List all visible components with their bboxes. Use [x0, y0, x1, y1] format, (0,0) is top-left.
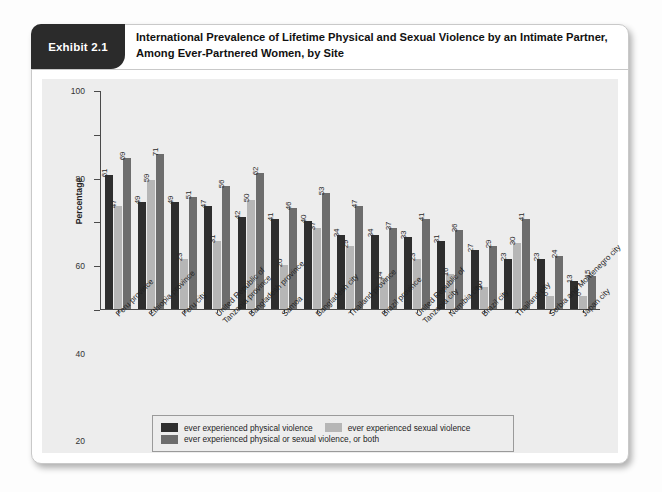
bar: 61 [105, 175, 113, 309]
bar-group: 233041 [500, 91, 533, 309]
bar-value-label: 29 [341, 239, 350, 248]
exhibit-number-label: Exhibit 2.1 [48, 41, 108, 53]
legend-swatch-sexual-icon [325, 423, 342, 432]
bar-value-label: 50 [242, 193, 251, 202]
bar-value-label: 71 [151, 147, 160, 156]
bar-value-label: 16 [441, 268, 450, 277]
bar-value-label: 13 [565, 274, 574, 283]
bar: 69 [123, 158, 131, 309]
legend-label-physical: ever experienced physical violence [184, 423, 313, 433]
header-divider [32, 69, 628, 70]
bar-value-label: 49 [133, 195, 142, 204]
bar-value-label: 47 [350, 200, 359, 209]
x-axis-labels: Peru provinceEthiopia provincePeru cityU… [101, 312, 601, 408]
bar: 53 [322, 193, 330, 309]
legend-row-1: ever experienced physical violence ever … [161, 423, 505, 433]
bar-group: 271029 [467, 91, 500, 309]
legend-swatch-either-icon [161, 435, 178, 444]
bar-value-label: 33 [399, 230, 408, 239]
bar-value-label: 30 [508, 237, 517, 246]
bar-value-label: 23 [175, 252, 184, 261]
bar-value-label: 41 [417, 213, 426, 222]
legend-label-either: ever experienced physical or sexual viol… [184, 434, 379, 444]
bar-value-label: 29 [484, 239, 493, 248]
bar: 47 [355, 206, 363, 309]
bar-value-label: 40 [299, 215, 308, 224]
bar-value-label: 24 [550, 250, 559, 259]
y-tick: 100 [94, 91, 100, 92]
bar-group: 495971 [134, 91, 167, 309]
chart-panel: Percentage 020406080100 6147694959714923… [42, 79, 618, 453]
y-tick-label: 100 [71, 86, 85, 96]
bar-value-label: 31 [208, 235, 217, 244]
bar-value-label: 41 [266, 213, 275, 222]
bar-group: 473156 [201, 91, 234, 309]
bar: 51 [189, 197, 197, 309]
legend-swatch-physical-icon [161, 423, 178, 432]
bar-value-label: 27 [466, 244, 475, 253]
y-tick: 60 [94, 179, 100, 180]
legend-item-sexual: ever experienced sexual violence [325, 423, 471, 433]
bar-value-label: 62 [251, 167, 260, 176]
bar: 47 [114, 206, 122, 309]
bar-group: 403753 [301, 91, 334, 309]
bar-value-label: 23 [499, 252, 508, 261]
y-tick-label: 80 [76, 174, 85, 184]
bar-group: 614769 [101, 91, 134, 309]
bar-value-label: 59 [142, 174, 151, 183]
legend-row-2: ever experienced physical or sexual viol… [161, 434, 505, 444]
legend-item-either: ever experienced physical or sexual viol… [161, 434, 379, 444]
bar-value-label: 49 [166, 195, 175, 204]
bar-value-label: 34 [332, 228, 341, 237]
bar-value-label: 31 [432, 235, 441, 244]
exhibit-header: Exhibit 2.1 International Prevalence of … [32, 25, 628, 69]
bar: 71 [156, 154, 164, 309]
bar: 37 [313, 228, 321, 309]
bar-value-label: 56 [217, 180, 226, 189]
bar-value-label: 23 [408, 252, 417, 261]
y-tick: 20 [94, 266, 100, 267]
bar-value-label: 69 [118, 152, 127, 161]
bar-value-label: 46 [284, 202, 293, 211]
y-tick: 40 [94, 222, 100, 223]
bar: 56 [222, 186, 230, 309]
bar-value-label: 34 [366, 228, 375, 237]
bar-value-label: 41 [517, 213, 526, 222]
y-tick: 0 [94, 310, 100, 311]
exhibit-title: International Prevalence of Lifetime Phy… [136, 30, 616, 61]
bar-value-label: 23 [532, 252, 541, 261]
bar-value-label: 61 [100, 169, 109, 178]
bar: 31 [213, 241, 221, 309]
bar-value-label: 53 [317, 187, 326, 196]
legend-item-physical: ever experienced physical violence [161, 423, 313, 433]
screenshot-root: Exhibit 2.1 International Prevalence of … [0, 0, 662, 492]
y-axis-title: Percentage [74, 177, 84, 223]
bar-value-label: 51 [184, 191, 193, 200]
bar-value-label: 42 [233, 211, 242, 220]
bar: 46 [289, 208, 297, 309]
legend-label-sexual: ever experienced sexual violence [348, 423, 471, 433]
y-tick-label: 40 [76, 349, 85, 359]
bar-group: 23624 [533, 91, 566, 309]
y-tick-label: 20 [76, 436, 85, 446]
chart-legend: ever experienced physical violence ever … [152, 415, 514, 452]
bar-value-label: 37 [308, 222, 317, 231]
bar-value-label: 20 [275, 259, 284, 268]
exhibit-number-tab: Exhibit 2.1 [31, 24, 125, 69]
bar: 23 [504, 259, 512, 309]
bar-value-label: 47 [199, 200, 208, 209]
bar: 30 [513, 243, 521, 309]
exhibit-card: Exhibit 2.1 International Prevalence of … [31, 24, 629, 464]
bar-value-label: 37 [384, 222, 393, 231]
y-tick-label: 60 [76, 261, 85, 271]
bar-value-label: 36 [450, 224, 459, 233]
y-tick: 80 [94, 135, 100, 136]
bar-value-label: 47 [109, 200, 118, 209]
